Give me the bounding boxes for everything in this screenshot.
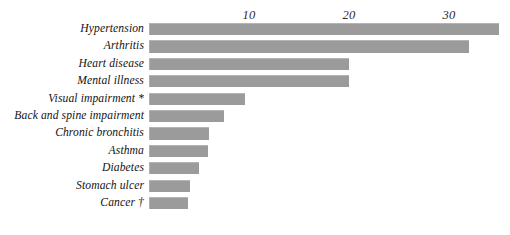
bar-row: Asthma: [0, 144, 510, 161]
bar: [149, 93, 245, 105]
bar-row: Stomach ulcer: [0, 179, 510, 196]
bar: [149, 110, 224, 122]
x-axis-tick-labels: 102030: [0, 0, 510, 24]
category-label: Arthritis: [104, 39, 144, 52]
bar: [149, 58, 349, 70]
bar-rows: HypertensionArthritisHeart diseaseMental…: [0, 22, 510, 213]
bar-row: Chronic bronchitis: [0, 126, 510, 143]
bar-row: Cancer †: [0, 196, 510, 213]
bar-row: Visual impairment *: [0, 92, 510, 109]
bar: [149, 145, 208, 157]
bar-row: Heart disease: [0, 57, 510, 74]
bar-row: Mental illness: [0, 74, 510, 91]
category-label: Chronic bronchitis: [55, 126, 144, 139]
bar-row: Arthritis: [0, 39, 510, 56]
bar-row: Hypertension: [0, 22, 510, 39]
bar: [149, 197, 188, 209]
bar: [149, 23, 499, 35]
bar-row: Back and spine impairment: [0, 109, 510, 126]
category-label: Mental illness: [77, 74, 144, 87]
x-tick-30: 30: [443, 8, 456, 22]
category-label: Hypertension: [80, 22, 144, 35]
category-label: Cancer †: [100, 196, 144, 209]
bar-row: Diabetes: [0, 161, 510, 178]
bar: [149, 127, 209, 139]
category-label: Stomach ulcer: [76, 179, 144, 192]
category-label: Visual impairment *: [48, 92, 144, 105]
bar: [149, 40, 469, 52]
category-label: Back and spine impairment: [14, 109, 144, 122]
bar: [149, 162, 199, 174]
category-label: Asthma: [109, 144, 144, 157]
category-label: Heart disease: [79, 57, 144, 70]
category-label: Diabetes: [102, 161, 144, 174]
bar-chart: 102030 HypertensionArthritisHeart diseas…: [0, 0, 510, 235]
bar: [149, 75, 349, 87]
x-tick-20: 20: [343, 8, 356, 22]
bar: [149, 180, 190, 192]
x-tick-10: 10: [243, 8, 256, 22]
